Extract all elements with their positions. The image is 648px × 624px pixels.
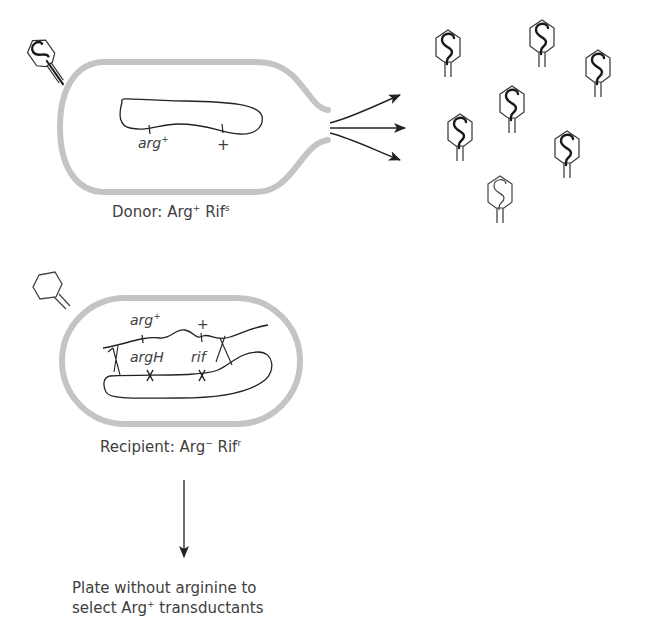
donor-chromosome <box>120 99 262 134</box>
released-phages <box>436 20 610 223</box>
donor-cell-wall <box>60 62 328 192</box>
selection-caption-line1: Plate without arginine to <box>72 578 263 598</box>
infecting-phage-icon <box>24 34 73 91</box>
recipient-cell-wall <box>62 298 300 424</box>
fragment-gene-arg: arg+ <box>130 313 161 327</box>
selection-caption-line2: select Arg+ transductants <box>72 598 263 618</box>
donor-label: Donor: Arg+ Rifs <box>112 205 230 220</box>
recipient-cell <box>62 298 300 424</box>
phage-with-dna-icon <box>448 114 472 161</box>
recipient-gene-rif: rif <box>191 350 206 364</box>
donor-gene-arg: arg+ <box>138 136 169 150</box>
phage-with-dna-icon <box>500 86 524 133</box>
selection-caption: Plate without arginine to select Arg+ tr… <box>72 578 263 618</box>
release-arrows <box>330 95 405 160</box>
phage-with-dna-icon <box>530 20 554 67</box>
donor-gene-plus: + <box>217 138 230 153</box>
recipient-label: Recipient: Arg− Rifr <box>100 440 241 455</box>
mutation-x-rif <box>199 370 205 381</box>
phage-with-dna-icon <box>586 50 610 97</box>
donor-cell <box>60 62 328 192</box>
phage-with-dna-icon <box>488 176 512 223</box>
recipient-gene-argH: argH <box>130 350 164 364</box>
empty-phage-icon <box>33 272 70 309</box>
transduction-diagram <box>0 0 648 624</box>
fragment-gene-plus: + <box>197 317 209 331</box>
phage-with-dna-icon <box>555 131 579 178</box>
donor-dna-fragment <box>103 325 268 348</box>
phage-with-dna-icon <box>436 30 460 77</box>
